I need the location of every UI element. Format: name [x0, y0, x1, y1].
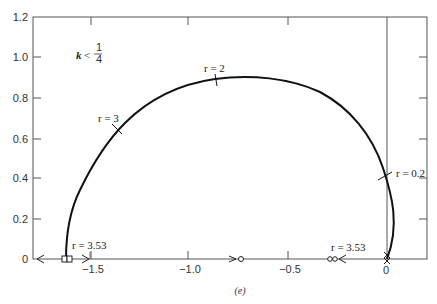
y-tick-label-0.6: 0.6: [13, 133, 28, 145]
svg-text:k: k: [76, 49, 82, 61]
svg-text:1: 1: [96, 41, 102, 53]
root-locus-curve: [66, 77, 394, 259]
annotation-r3: r = 3: [98, 112, 119, 124]
x-tick-label--1.0: −1.0: [179, 263, 201, 275]
x-tick-label-0: 0: [383, 264, 389, 276]
r2-tick: [215, 74, 217, 86]
y-tick-label-0: 0: [22, 253, 28, 265]
condition-label: k < 1 4: [76, 41, 102, 65]
y-tick-label-1.0: 1.0: [13, 51, 28, 63]
y-tick-label-0.4: 0.4: [13, 172, 28, 184]
y-tick-label-1.2: 1.2: [13, 11, 28, 23]
x-tick-label--1.5: −1.5: [82, 263, 104, 275]
y-tick-label-0.8: 0.8: [13, 92, 28, 104]
svg-text:<: <: [84, 49, 90, 61]
annotation-r3.53-left: r = 3.53: [72, 239, 107, 251]
root-locus-chart: 1.2 1.0 0.8 0.6 0.4 0.2 0 −1.5 −1.0 −0.5…: [0, 0, 437, 304]
annotation-r3.53-right: r = 3.53: [331, 241, 366, 253]
x-tick-label--0.5: −0.5: [279, 263, 301, 275]
x-axis-ticks: [91, 17, 288, 259]
svg-text:4: 4: [96, 53, 102, 65]
annotation-r0.2: r = 0.2: [396, 167, 425, 179]
figure-caption: (e): [234, 285, 246, 297]
annotation-r2: r = 2: [204, 62, 225, 74]
y-tick-label-0.2: 0.2: [13, 213, 28, 225]
